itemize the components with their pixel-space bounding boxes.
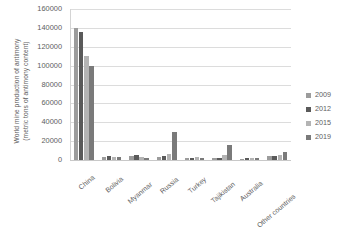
bar — [222, 155, 226, 160]
legend-label: 2012 — [315, 105, 331, 113]
x-axis-tick-labels: ChinaBoliviaMyanmarRussiaTurkeyTajikista… — [70, 162, 291, 222]
legend-item: 2009 — [306, 88, 354, 102]
y-axis-tick-label: 80000 — [41, 81, 62, 89]
bar-group — [208, 9, 236, 160]
bar — [157, 157, 161, 160]
bar — [107, 156, 111, 160]
bar-group — [181, 9, 209, 160]
gridline — [70, 160, 291, 161]
x-axis-tick-label: Russia — [159, 176, 181, 196]
bar — [278, 155, 282, 160]
bar — [74, 28, 78, 160]
bar — [217, 158, 221, 160]
bar — [195, 157, 199, 160]
y-axis-tick-label: 0 — [58, 156, 62, 164]
bar — [129, 156, 133, 160]
x-axis-tick-label: Bolivia — [104, 175, 125, 194]
bar-group — [263, 9, 291, 160]
y-axis-tick-label: 140000 — [37, 24, 62, 32]
x-axis-tick-label: Other countries — [255, 193, 297, 228]
y-axis-tick-label: 20000 — [41, 137, 62, 145]
legend-label: 2009 — [315, 91, 331, 99]
bar — [112, 157, 116, 160]
x-axis-tick-label: Turkey — [186, 176, 207, 196]
bar — [272, 156, 276, 160]
y-axis-tick-labels: 0200004000060000800001000001200001400001… — [0, 9, 66, 160]
bar — [283, 152, 287, 160]
y-axis-tick-label: 160000 — [37, 5, 62, 13]
legend-label: 2015 — [315, 119, 331, 127]
bar — [190, 158, 194, 160]
bar — [134, 155, 138, 160]
legend-item: 2019 — [306, 130, 354, 144]
legend: 2009201220152019 — [306, 88, 354, 144]
bar — [102, 157, 106, 160]
bar — [255, 158, 259, 160]
bar-group — [98, 9, 126, 160]
legend-item: 2015 — [306, 116, 354, 130]
y-axis-tick-label: 120000 — [37, 43, 62, 51]
bar — [245, 158, 249, 160]
bar — [185, 158, 189, 160]
y-axis-tick-label: 100000 — [37, 62, 62, 70]
legend-label: 2019 — [315, 133, 331, 141]
legend-swatch-icon — [306, 107, 311, 112]
bar — [167, 154, 171, 160]
bar-group — [125, 9, 153, 160]
x-axis-tick-label: China — [77, 174, 96, 192]
bar-group — [153, 9, 181, 160]
bar — [89, 66, 93, 160]
bar — [84, 56, 88, 160]
legend-swatch-icon — [306, 135, 311, 140]
bar — [144, 158, 148, 160]
bar — [240, 159, 244, 160]
bar-group — [70, 9, 98, 160]
legend-swatch-icon — [306, 121, 311, 126]
x-axis-tick-label: Myanmar — [127, 181, 155, 206]
bar — [212, 158, 216, 160]
y-axis-tick-label: 40000 — [41, 118, 62, 126]
plot-area — [70, 9, 291, 160]
y-axis-tick-label: 60000 — [41, 99, 62, 107]
x-axis-tick-label: Australia — [238, 180, 264, 204]
bar — [200, 158, 204, 160]
bar — [250, 158, 254, 160]
bar — [172, 132, 176, 160]
bar — [227, 145, 231, 160]
legend-swatch-icon — [306, 93, 311, 98]
x-axis-tick-label: Tajikistan — [210, 181, 237, 206]
bar-groups — [70, 9, 291, 160]
legend-item: 2012 — [306, 102, 354, 116]
bar — [79, 32, 83, 160]
bar-group — [236, 9, 264, 160]
bar — [139, 157, 143, 160]
bar — [162, 156, 166, 160]
antimony-production-bar-chart: World mine production of antimony (metri… — [0, 0, 356, 228]
bar — [267, 156, 271, 160]
bar — [117, 157, 121, 160]
